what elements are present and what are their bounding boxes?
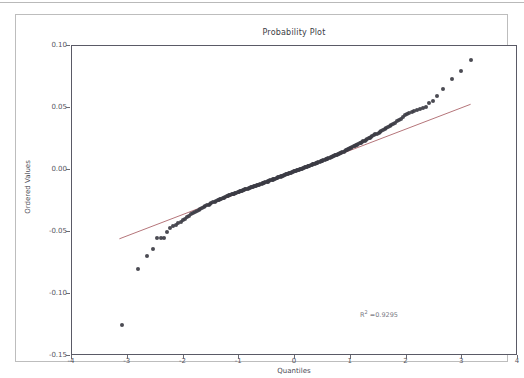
top-divider bbox=[0, 2, 524, 3]
x-axis-label: Quantiles bbox=[71, 367, 517, 375]
data-point bbox=[450, 77, 454, 81]
x-tick-mark bbox=[406, 355, 407, 359]
x-tick-mark bbox=[183, 355, 184, 359]
x-tick-mark bbox=[238, 355, 239, 359]
figure-frame: Probability Plot 0.100.050.00-0.05-0.10-… bbox=[15, 14, 508, 362]
x-tick-mark bbox=[294, 355, 295, 359]
y-tick-mark bbox=[66, 293, 70, 294]
y-tick-label: -0.05 bbox=[49, 227, 67, 235]
y-tick-label: 0.00 bbox=[51, 165, 67, 173]
y-tick-mark bbox=[66, 355, 70, 356]
page-title: Probability Plot bbox=[71, 28, 517, 37]
data-point bbox=[136, 267, 140, 271]
data-point bbox=[165, 230, 169, 234]
x-tick-mark bbox=[517, 355, 518, 359]
data-point bbox=[162, 236, 166, 240]
x-tick-mark bbox=[461, 355, 462, 359]
fit-line bbox=[72, 46, 517, 355]
y-axis-label: Ordered Values bbox=[24, 142, 32, 232]
data-point bbox=[151, 247, 155, 251]
data-point bbox=[435, 94, 439, 98]
r2-value: =0.9295 bbox=[368, 311, 398, 319]
x-tick-mark bbox=[71, 355, 72, 359]
y-tick-mark bbox=[66, 107, 70, 108]
y-tick-mark bbox=[66, 169, 70, 170]
y-tick-label: 0.05 bbox=[51, 103, 67, 111]
data-point bbox=[120, 323, 124, 327]
y-tick-label: -0.10 bbox=[49, 289, 67, 297]
data-point bbox=[469, 58, 473, 62]
y-tick-mark bbox=[66, 231, 70, 232]
data-point bbox=[431, 99, 435, 103]
plot-area bbox=[71, 45, 517, 355]
y-tick-label: 0.10 bbox=[51, 41, 67, 49]
y-tick-label: -0.15 bbox=[49, 351, 67, 359]
data-point bbox=[441, 87, 445, 91]
data-point bbox=[145, 254, 149, 258]
x-tick-mark bbox=[350, 355, 351, 359]
r-squared-annotation: R2 =0.9295 bbox=[360, 309, 398, 319]
data-point bbox=[459, 69, 463, 73]
y-tick-mark bbox=[66, 45, 70, 46]
data-point bbox=[424, 105, 428, 109]
x-tick-mark bbox=[127, 355, 128, 359]
